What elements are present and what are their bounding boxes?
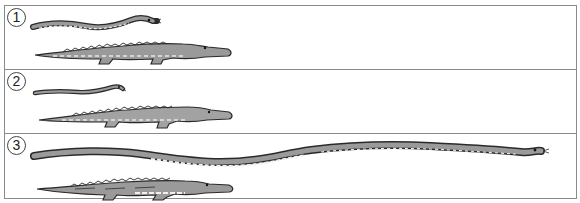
panel-3: 3 xyxy=(5,134,576,198)
panel-number-badge: 2 xyxy=(7,72,26,91)
snake-icon xyxy=(31,140,551,170)
panel-2: 2 xyxy=(5,70,576,134)
panel-number-badge: 3 xyxy=(7,136,26,155)
crocodile-icon xyxy=(37,100,233,130)
crocodile-icon xyxy=(33,38,233,66)
panel-number-badge: 1 xyxy=(7,8,26,27)
comparison-figure: 1 2 3 xyxy=(4,5,577,199)
crocodile-icon xyxy=(35,174,235,202)
snake-icon xyxy=(33,82,128,98)
panel-1: 1 xyxy=(5,6,576,70)
snake-icon xyxy=(31,14,161,34)
